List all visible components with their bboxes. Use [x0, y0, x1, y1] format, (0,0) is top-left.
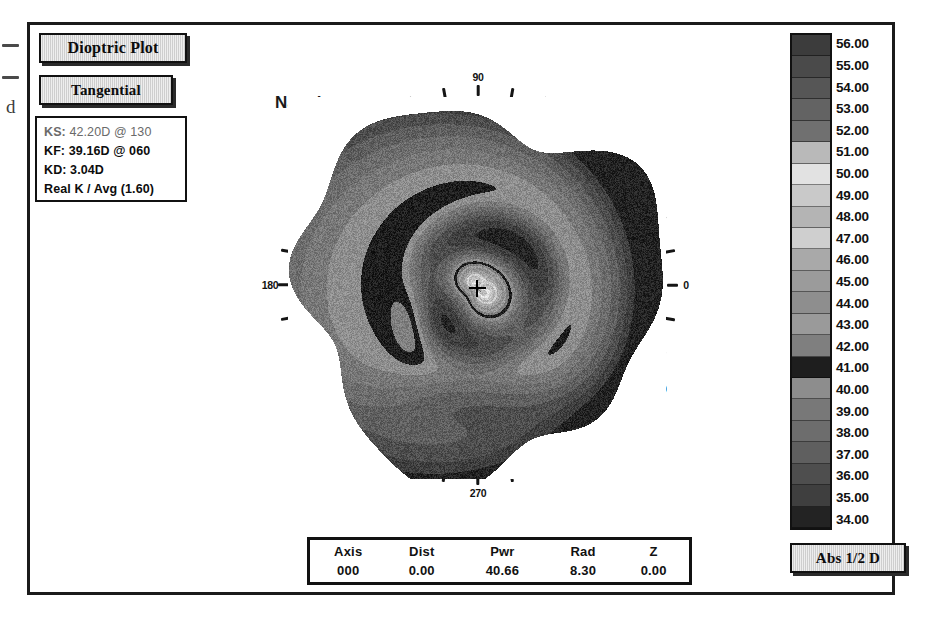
- color-scale-swatch: [792, 249, 830, 270]
- color-scale-swatch: [792, 207, 830, 228]
- color-scale-swatch: [792, 357, 830, 378]
- table-cell: 40.66: [457, 561, 548, 580]
- table-cell: 0.00: [618, 561, 689, 580]
- kd-label: KD:: [44, 163, 67, 177]
- color-scale-swatch: [792, 314, 830, 335]
- color-scale-tick-label: 50.00: [836, 163, 896, 185]
- color-scale-tick-label: 54.00: [836, 76, 896, 98]
- color-scale-swatch: [792, 442, 830, 463]
- color-scale-swatch: [792, 292, 830, 313]
- dial-tick: [477, 85, 480, 96]
- k-method-label: Real K / Avg (1.60): [44, 180, 185, 199]
- table-header-row: AxisDistPwrRadZ: [310, 540, 689, 561]
- color-scale-tick-label: 40.00: [836, 379, 896, 401]
- table-cell: 0.00: [386, 561, 457, 580]
- left-control-panel: Dioptric Plot Tangential KS: 42.20D @ 13…: [33, 28, 193, 588]
- scan-artifact-dash: [2, 76, 19, 79]
- cursor-readout-table: AxisDistPwrRadZ 0000.0040.668.300.00: [307, 537, 692, 585]
- color-scale-panel: 56.0055.0054.0053.0052.0051.0050.0049.00…: [786, 27, 896, 587]
- color-scale-swatch: [792, 228, 830, 249]
- kd-reading-row: KD: 3.04D: [44, 161, 185, 180]
- map-mode-button-tangential[interactable]: Tangential: [39, 75, 173, 105]
- color-scale-tick-label: 49.00: [836, 184, 896, 206]
- dial-tick: [667, 284, 678, 287]
- table-body: 0000.0040.668.300.00: [310, 561, 689, 580]
- color-scale-tick-label: 39.00: [836, 400, 896, 422]
- color-scale-labels: 56.0055.0054.0053.0052.0051.0050.0049.00…: [836, 33, 896, 530]
- color-scale-swatch: [792, 99, 830, 120]
- color-scale-swatch: [792, 121, 830, 142]
- ks-reading-row: KS: 42.20D @ 130: [44, 123, 185, 142]
- color-scale-swatch: [792, 35, 830, 56]
- ks-at-symbol: @: [114, 125, 127, 139]
- keratometry-readout-panel: KS: 42.20D @ 130 KF: 39.16D @ 060 KD: 3.…: [35, 116, 187, 202]
- color-scale-tick-label: 44.00: [836, 292, 896, 314]
- kf-value: 39.16D: [69, 144, 110, 158]
- scan-artifact-char: d: [6, 96, 16, 118]
- table-column-header: Rad: [548, 540, 619, 561]
- color-scale-swatch: [792, 378, 830, 399]
- color-scale-tick-label: 35.00: [836, 487, 896, 509]
- color-scale-swatch: [792, 399, 830, 420]
- application-frame: Dioptric Plot Tangential KS: 42.20D @ 13…: [27, 22, 895, 595]
- color-scale-swatch: [792, 142, 830, 163]
- color-scale-tick-label: 46.00: [836, 249, 896, 271]
- color-scale-swatch: [792, 507, 830, 528]
- dial-degree-label-180: 180: [262, 279, 279, 291]
- color-scale-tick-label: 48.00: [836, 206, 896, 228]
- table-column-header: Z: [618, 540, 689, 561]
- scan-artifact-group: d: [0, 0, 30, 621]
- kf-label: KF:: [44, 144, 65, 158]
- color-scale-swatch: [792, 164, 830, 185]
- dial-degree-label-270: 270: [470, 487, 487, 499]
- table-column-header: Axis: [310, 540, 386, 561]
- color-scale-swatch: [792, 185, 830, 206]
- color-scale-tick-label: 34.00: [836, 508, 896, 530]
- color-scale-bar[interactable]: [790, 33, 832, 530]
- color-scale-tick-label: 38.00: [836, 422, 896, 444]
- color-scale-tick-label: 56.00: [836, 33, 896, 55]
- table-cell: 000: [310, 561, 386, 580]
- corneal-topography-heatmap[interactable]: [288, 97, 666, 479]
- table-column-header: Dist: [386, 540, 457, 561]
- table-cell: 8.30: [548, 561, 619, 580]
- color-scale-swatch: [792, 271, 830, 292]
- color-scale-tick-label: 55.00: [836, 55, 896, 77]
- scale-mode-button-abs[interactable]: Abs 1/2 D: [790, 543, 906, 573]
- color-scale-swatch: [792, 335, 830, 356]
- topography-map-area: Nasal 0306090120150180210240270300330: [230, 45, 710, 535]
- color-scale-tick-label: 43.00: [836, 314, 896, 336]
- dial-degree-label-90: 90: [472, 71, 483, 83]
- color-scale-tick-label: 37.00: [836, 444, 896, 466]
- color-scale-tick-label: 41.00: [836, 357, 896, 379]
- color-scale-tick-label: 53.00: [836, 98, 896, 120]
- color-scale-tick-label: 52.00: [836, 119, 896, 141]
- table-column-header: Pwr: [457, 540, 548, 561]
- kf-at-symbol: @: [113, 144, 125, 158]
- scan-artifact-dash: [2, 44, 19, 47]
- color-scale-swatch: [792, 78, 830, 99]
- dial-degree-label-0: 0: [683, 279, 689, 291]
- color-scale-swatch: [792, 485, 830, 506]
- color-scale-swatch: [792, 464, 830, 485]
- color-scale-swatch: [792, 421, 830, 442]
- color-scale-tick-label: 45.00: [836, 271, 896, 293]
- ks-label: KS:: [44, 125, 66, 139]
- ks-axis: 130: [130, 125, 151, 139]
- color-scale-tick-label: 47.00: [836, 227, 896, 249]
- color-scale-tick-label: 42.00: [836, 336, 896, 358]
- color-scale-tick-label: 51.00: [836, 141, 896, 163]
- kd-value: 3.04D: [70, 163, 104, 177]
- ks-value: 42.20D: [69, 125, 110, 139]
- table-row: 0000.0040.668.300.00: [310, 561, 689, 580]
- kf-reading-row: KF: 39.16D @ 060: [44, 142, 185, 161]
- color-scale-tick-label: 36.00: [836, 465, 896, 487]
- dioptric-plot-button[interactable]: Dioptric Plot: [39, 33, 187, 63]
- kf-axis: 060: [129, 144, 150, 158]
- color-scale-swatch: [792, 56, 830, 77]
